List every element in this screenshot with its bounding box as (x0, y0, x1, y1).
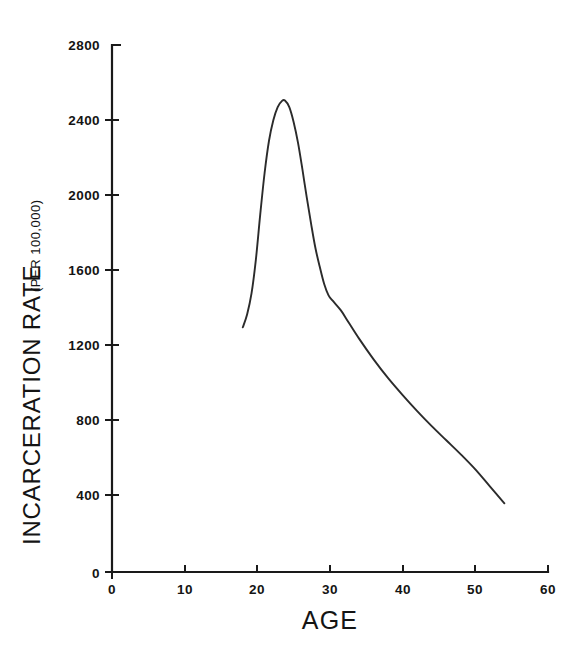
y-tick-label-400: 400 (76, 488, 100, 503)
x-tick-label-60: 60 (540, 582, 556, 597)
incarceration-rate-line-chart: 2800 2400 2000 1600 1200 800 400 0 0 10 … (0, 0, 585, 655)
x-tick-label-30: 30 (322, 582, 338, 597)
y-tick-label-800: 800 (76, 413, 100, 428)
y-axis-title-main: INCARCERATION RATE (18, 265, 45, 545)
x-tick-label-20: 20 (249, 582, 265, 597)
x-tick-label-10: 10 (177, 582, 193, 597)
y-tick-label-0: 0 (92, 566, 100, 581)
y-tick-label-2800: 2800 (68, 38, 100, 53)
y-tick-label-2000: 2000 (68, 188, 100, 203)
x-tick-label-50: 50 (467, 582, 483, 597)
y-tick-label-1200: 1200 (68, 338, 100, 353)
x-tick-label-0: 0 (108, 582, 116, 597)
x-axis-title: AGE (302, 606, 358, 634)
chart-figure: 2800 2400 2000 1600 1200 800 400 0 0 10 … (0, 0, 585, 655)
y-tick-label-1600: 1600 (68, 263, 100, 278)
y-tick-label-2400: 2400 (68, 113, 100, 128)
chart-background (0, 0, 585, 655)
x-tick-label-40: 40 (395, 582, 411, 597)
y-axis-title-sub: (PER 100,000) (28, 200, 43, 293)
